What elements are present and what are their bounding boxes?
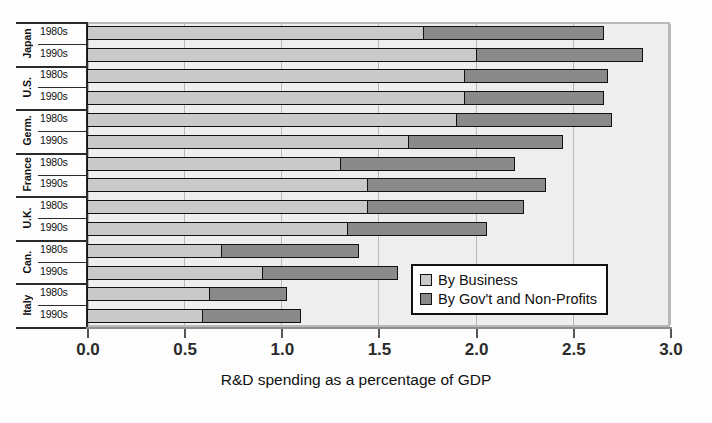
decade-label: 1990s bbox=[40, 134, 84, 146]
bar-segment-business bbox=[87, 244, 221, 258]
bar-segment-government bbox=[367, 178, 546, 192]
bar-segment-business bbox=[87, 266, 262, 280]
x-axis-tick bbox=[476, 329, 478, 338]
decade-separator bbox=[38, 262, 86, 263]
bar-japan-1980s bbox=[87, 26, 604, 40]
x-axis-tick-label: 0.5 bbox=[155, 340, 215, 360]
legend-item-government: By Gov't and Non-Profits bbox=[420, 291, 597, 307]
chart-figure: 0.00.51.01.52.02.53.0 1980s1990s1980s199… bbox=[0, 0, 712, 423]
gridline bbox=[670, 24, 671, 325]
group-label-japan: Japan bbox=[18, 22, 36, 66]
bar-france-1990s bbox=[87, 178, 546, 192]
bar-uk-1980s bbox=[87, 200, 524, 214]
bar-italy-1990s bbox=[87, 309, 301, 323]
x-axis-title: R&D spending as a percentage of GDP bbox=[0, 371, 712, 389]
decade-label: 1990s bbox=[40, 265, 84, 277]
bar-segment-government bbox=[464, 69, 608, 83]
decade-label: 1990s bbox=[40, 221, 84, 233]
bar-us-1980s bbox=[87, 69, 608, 83]
bar-germ-1980s bbox=[87, 113, 612, 127]
bar-segment-government bbox=[367, 200, 524, 214]
bar-germ-1990s bbox=[87, 135, 563, 149]
legend-label-business: By Business bbox=[438, 272, 518, 288]
bar-segment-government bbox=[347, 222, 487, 236]
bar-segment-business bbox=[87, 91, 464, 105]
group-separator bbox=[16, 22, 86, 24]
x-axis-tick-label: 1.0 bbox=[252, 340, 312, 360]
group-label-germ: Germ. bbox=[18, 109, 36, 153]
group-separator bbox=[16, 66, 86, 68]
legend-swatch-government-icon bbox=[420, 293, 432, 305]
bar-segment-government bbox=[202, 309, 301, 323]
bar-segment-government bbox=[221, 244, 359, 258]
bar-segment-government bbox=[423, 26, 604, 40]
chart-legend: By Business By Gov't and Non-Profits bbox=[411, 264, 608, 315]
decade-label: 1980s bbox=[40, 112, 84, 124]
legend-swatch-business-icon bbox=[420, 274, 432, 286]
bar-segment-business bbox=[87, 26, 423, 40]
x-axis-tick-label: 3.0 bbox=[641, 340, 701, 360]
bar-uk-1990s bbox=[87, 222, 487, 236]
bar-can-1980s bbox=[87, 244, 359, 258]
group-label-italy: Italy bbox=[18, 283, 36, 327]
decade-label: 1980s bbox=[40, 286, 84, 298]
bar-us-1990s bbox=[87, 91, 604, 105]
decade-label: 1980s bbox=[40, 199, 84, 211]
x-axis-tick-label: 2.0 bbox=[447, 340, 507, 360]
bar-italy-1980s bbox=[87, 287, 287, 301]
group-separator bbox=[16, 153, 86, 155]
x-axis-tick bbox=[378, 329, 380, 338]
bar-japan-1990s bbox=[87, 48, 643, 62]
decade-label: 1990s bbox=[40, 47, 84, 59]
legend-label-government: By Gov't and Non-Profits bbox=[438, 291, 597, 307]
bar-segment-business bbox=[87, 113, 456, 127]
group-label-france: France bbox=[18, 153, 36, 197]
group-label-can: Can. bbox=[18, 240, 36, 284]
bar-can-1990s bbox=[87, 266, 398, 280]
x-axis-tick-label: 0.0 bbox=[58, 340, 118, 360]
bar-segment-business bbox=[87, 200, 367, 214]
group-separator bbox=[16, 240, 86, 242]
y-axis-line bbox=[86, 22, 88, 327]
bar-segment-business bbox=[87, 178, 367, 192]
bar-segment-government bbox=[262, 266, 398, 280]
decade-label: 1980s bbox=[40, 25, 84, 37]
x-axis-tick bbox=[573, 329, 575, 338]
x-axis-tick bbox=[184, 329, 186, 338]
bar-segment-business bbox=[87, 69, 464, 83]
group-label-us: U.S. bbox=[18, 66, 36, 110]
group-separator bbox=[16, 327, 86, 329]
bar-segment-government bbox=[464, 91, 604, 105]
bar-segment-business bbox=[87, 157, 340, 171]
x-axis-tick-label: 2.5 bbox=[544, 340, 604, 360]
bar-segment-government bbox=[408, 135, 563, 149]
bar-segment-business bbox=[87, 135, 408, 149]
group-separator bbox=[16, 109, 86, 111]
bar-segment-government bbox=[340, 157, 515, 171]
decade-label: 1980s bbox=[40, 156, 84, 168]
group-separator bbox=[16, 283, 86, 285]
decade-separator bbox=[38, 218, 86, 219]
decade-separator bbox=[38, 87, 86, 88]
bar-france-1980s bbox=[87, 157, 515, 171]
bar-segment-government bbox=[209, 287, 287, 301]
bar-segment-business bbox=[87, 309, 202, 323]
decade-separator bbox=[38, 131, 86, 132]
group-separator bbox=[16, 196, 86, 198]
x-axis-tick bbox=[281, 329, 283, 338]
decade-label: 1980s bbox=[40, 68, 84, 80]
decade-separator bbox=[38, 44, 86, 45]
x-axis-tick bbox=[87, 329, 89, 338]
bar-segment-government bbox=[476, 48, 643, 62]
legend-item-business: By Business bbox=[420, 272, 597, 288]
decade-separator bbox=[38, 175, 86, 176]
decade-label: 1980s bbox=[40, 243, 84, 255]
group-label-uk: U.K. bbox=[18, 196, 36, 240]
x-axis-tick bbox=[670, 329, 672, 338]
decade-label: 1990s bbox=[40, 90, 84, 102]
bar-segment-business bbox=[87, 222, 347, 236]
decade-label: 1990s bbox=[40, 177, 84, 189]
decade-separator bbox=[38, 305, 86, 306]
bar-segment-business bbox=[87, 48, 476, 62]
bar-segment-government bbox=[456, 113, 611, 127]
